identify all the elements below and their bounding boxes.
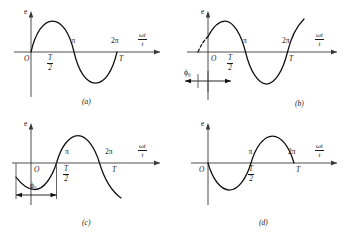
half-period-numerator-b: T bbox=[227, 55, 233, 63]
two-pi-tick-label-c: 2π bbox=[105, 148, 113, 156]
vertical-axis-arrowhead-c bbox=[29, 123, 34, 130]
half-period-numerator-a: T bbox=[47, 55, 53, 63]
t-denominator-b: t bbox=[317, 40, 321, 47]
phase-arrowhead-right-b bbox=[225, 79, 231, 83]
half-period-numerator-d: T bbox=[248, 166, 254, 174]
phase-arrowhead-left-b bbox=[185, 79, 191, 83]
vertical-axis-arrowhead-b bbox=[206, 11, 211, 18]
half-period-label-c: T 2 bbox=[63, 166, 69, 183]
panel-d: e O π 2π T 2 T ωt t (d) bbox=[177, 119, 354, 237]
t-denominator-a: t bbox=[140, 40, 144, 47]
panel-b: e O π 2π T 2 T ωt t ϕ₀ (b) bbox=[177, 0, 354, 118]
omega-t-numerator-a: ωt bbox=[138, 31, 147, 38]
panel-caption-d: (d) bbox=[259, 218, 268, 227]
origin-label-a: O bbox=[24, 55, 29, 62]
horizontal-axis-arrowhead-b bbox=[331, 50, 337, 55]
half-period-numerator-c: T bbox=[63, 166, 69, 174]
t-denominator-c: t bbox=[140, 151, 144, 158]
t-denominator-d: t bbox=[317, 151, 321, 158]
horizontal-axis-arrowhead-c bbox=[154, 161, 160, 166]
waveform-curve-b bbox=[208, 19, 304, 84]
panel-a: e O π 2π T 2 T ωt t (a) bbox=[0, 0, 177, 118]
period-label-c: T bbox=[112, 166, 116, 173]
horizontal-axis-arrowhead-d bbox=[331, 161, 337, 166]
pi-tick-label-b: π bbox=[243, 37, 247, 45]
period-label-d: T bbox=[296, 166, 300, 173]
vertical-axis-label-c: e bbox=[24, 120, 27, 127]
phase-angle-label-b: ϕ₀ bbox=[184, 68, 191, 77]
half-period-label-b: T 2 bbox=[227, 55, 233, 72]
two-pi-tick-label-a: 2π bbox=[111, 37, 119, 45]
pi-tick-label-c: π bbox=[65, 148, 69, 156]
origin-label-d: O bbox=[199, 166, 204, 173]
period-label-a: T bbox=[119, 55, 123, 62]
omega-t-numerator-c: ωt bbox=[138, 142, 147, 149]
panel-caption-b: (b) bbox=[295, 99, 304, 108]
horizontal-axis-label-a: ωt t bbox=[138, 31, 147, 48]
horizontal-axis-label-d: ωt t bbox=[315, 142, 324, 159]
pi-tick-label-a: π bbox=[72, 37, 76, 45]
half-period-label-d: T 2 bbox=[248, 166, 254, 183]
omega-t-numerator-d: ωt bbox=[315, 142, 324, 149]
phase-angle-label-c: ϕ₀ bbox=[30, 181, 37, 190]
half-period-label-a: T 2 bbox=[47, 55, 53, 72]
vertical-axis-label-d: e bbox=[201, 120, 204, 127]
panel-b-plot bbox=[177, 0, 354, 118]
vertical-axis-label-b: e bbox=[201, 8, 204, 15]
horizontal-axis-label-c: ωt t bbox=[138, 142, 147, 159]
half-period-denominator-a: 2 bbox=[47, 65, 53, 73]
figure-root: e O π 2π T 2 T ωt t (a) bbox=[0, 0, 354, 237]
vertical-axis-arrowhead-a bbox=[29, 11, 34, 18]
origin-label-b: O bbox=[211, 55, 216, 62]
two-pi-tick-label-b: 2π bbox=[282, 37, 290, 45]
panel-caption-a: (a) bbox=[82, 97, 91, 106]
phase-arrowhead-left-c bbox=[16, 193, 22, 197]
phase-arrowhead-right-c bbox=[51, 193, 57, 197]
origin-label-c: O bbox=[34, 166, 39, 173]
vertical-axis-arrowhead-d bbox=[206, 123, 211, 130]
horizontal-axis-arrowhead-a bbox=[154, 50, 160, 55]
period-label-b: T bbox=[289, 55, 293, 62]
two-pi-tick-label-d: 2π bbox=[288, 148, 296, 156]
panel-caption-c: (c) bbox=[82, 218, 90, 227]
half-period-denominator-c: 2 bbox=[63, 176, 69, 184]
horizontal-axis-label-b: ωt t bbox=[315, 31, 324, 48]
half-period-denominator-b: 2 bbox=[227, 65, 233, 73]
pi-tick-label-d: π bbox=[249, 148, 253, 156]
panel-c: e O π 2π T 2 T ωt t ϕ₀ (c) bbox=[0, 119, 177, 237]
omega-t-numerator-b: ωt bbox=[315, 31, 324, 38]
waveform-dashed-leadin-b bbox=[198, 37, 208, 53]
vertical-axis-label-a: e bbox=[24, 8, 27, 15]
half-period-denominator-d: 2 bbox=[248, 176, 254, 184]
